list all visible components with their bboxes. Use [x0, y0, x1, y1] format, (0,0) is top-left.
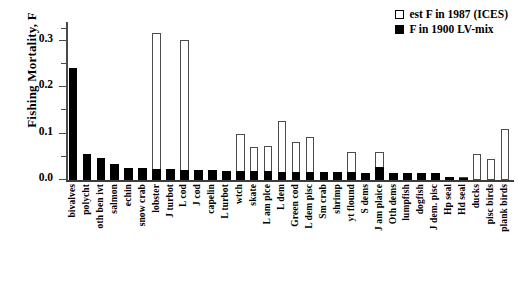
bar-filled [417, 173, 426, 180]
bar-slot [431, 22, 440, 180]
x-axis-tick-label: oth ben ivt [96, 184, 106, 228]
x-axis-tick-label: S dems [361, 184, 371, 213]
x-axis-tick-label: J turbot [166, 184, 176, 218]
x-axis-tick-label: lumpfish [402, 184, 412, 221]
x-axis-tick-label: echin [124, 184, 134, 206]
x-axis-tick-label: bivalves [68, 184, 78, 218]
y-axis-tick-label: 0.3 [39, 32, 53, 44]
x-axis-tick-label: Sm crab [319, 184, 329, 219]
bar-slot [306, 22, 315, 180]
legend-item-est-f-1987: est F in 1987 (ICES) [395, 8, 508, 20]
bar-slot [152, 22, 161, 180]
bar-chart-figure: Fishing Mortality, F 0.00.10.20.3 bivalv… [0, 0, 518, 294]
x-axis-tick-label: Hp seal [444, 184, 454, 215]
bar-filled [292, 172, 301, 180]
bar-filled [97, 158, 106, 180]
bar-filled [166, 169, 175, 180]
bar-filled [236, 171, 245, 180]
x-axis-tick-label: Hd seal [458, 184, 468, 215]
bar-slot [501, 22, 510, 180]
bar-filled [110, 164, 119, 180]
bar-slot [97, 22, 106, 180]
x-axis-tick-label: pisc birds [486, 184, 496, 224]
bar-filled [83, 154, 92, 180]
bar-slot [333, 22, 342, 180]
bar-slot [110, 22, 119, 180]
x-axis-tick-label: L cod [179, 184, 189, 207]
bar-slot [194, 22, 203, 180]
x-axis-tick-label: L turbot [221, 184, 231, 219]
bar-slot [166, 22, 175, 180]
bar-slot [473, 22, 482, 180]
bar-filled [180, 170, 189, 180]
y-axis-tick: 0.0 [59, 179, 66, 180]
bar-group [66, 22, 512, 180]
bar-filled [361, 173, 370, 180]
bar-slot [250, 22, 259, 180]
bar-slot [236, 22, 245, 180]
x-axis-tick-label: wtch [235, 184, 245, 204]
bar-filled [208, 170, 217, 180]
legend-label: est F in 1987 (ICES) [409, 8, 508, 20]
bar-filled [306, 172, 315, 180]
x-axis-tick-label: J dem. pisc [430, 184, 440, 230]
x-axis-tick-label: Green cod [291, 184, 301, 227]
bar-slot [361, 22, 370, 180]
x-axis-tick-label: snow crab [138, 184, 148, 226]
x-axis-tick-label: salmon [110, 184, 120, 214]
x-axis-tick-label: plank birds [500, 184, 510, 232]
bar-slot [445, 22, 454, 180]
bar-filled [138, 168, 147, 180]
y-axis-tick-label: 0.0 [39, 171, 53, 183]
bar-filled [250, 171, 259, 180]
bar-filled [320, 172, 329, 180]
bar-filled [222, 171, 231, 180]
bar-open [180, 40, 189, 180]
bar-slot [487, 22, 496, 180]
legend-swatch-filled-icon [395, 25, 404, 34]
plot-area: 0.00.10.20.3 [66, 22, 512, 180]
y-axis-tick: 0.2 [59, 86, 66, 87]
bar-slot [389, 22, 398, 180]
bar-slot [347, 22, 356, 180]
bar-slot [403, 22, 412, 180]
bar-filled [445, 177, 454, 180]
y-axis-tick: 0.3 [59, 40, 66, 41]
bar-slot [278, 22, 287, 180]
x-axis-tick-labels: bivalvespolychtoth ben ivtsalmonechinsno… [66, 184, 512, 292]
bar-filled [124, 168, 133, 180]
x-axis-tick-label: J cod [193, 184, 203, 206]
bar-slot [375, 22, 384, 180]
bar-slot [124, 22, 133, 180]
bar-filled [459, 178, 468, 180]
bar-filled [431, 173, 440, 180]
bar-slot [180, 22, 189, 180]
legend-label: F in 1900 LV-mix [409, 23, 493, 35]
y-axis-tick-label: 0.1 [39, 125, 53, 137]
bar-filled [389, 173, 398, 180]
bar-filled [278, 172, 287, 180]
bar-open [152, 33, 161, 180]
bar-slot [208, 22, 217, 180]
bar-filled [69, 68, 78, 180]
bar-open [487, 159, 496, 180]
y-axis-title: Fishing Mortality, F [24, 0, 40, 150]
x-axis-tick-label: J am plaice [375, 184, 385, 231]
y-axis-tick: 0.1 [59, 133, 66, 134]
bar-slot [320, 22, 329, 180]
x-axis-tick-label: yt flound [347, 184, 357, 222]
bar-filled [264, 171, 273, 180]
x-axis-tick-label: Oth dems [389, 184, 399, 224]
x-axis-tick-label: L dem [277, 184, 287, 210]
x-axis-line [66, 180, 514, 182]
chart-legend: est F in 1987 (ICES) F in 1900 LV-mix [395, 8, 508, 38]
y-axis-tick-label: 0.2 [39, 78, 53, 90]
x-axis-tick-label: lobster [152, 184, 162, 213]
bar-slot [264, 22, 273, 180]
x-axis-tick-label: L dem pisc [305, 184, 315, 229]
bar-slot [69, 22, 78, 180]
bar-filled [194, 170, 203, 180]
bar-filled [375, 167, 384, 180]
bar-slot [222, 22, 231, 180]
bar-filled [333, 172, 342, 180]
